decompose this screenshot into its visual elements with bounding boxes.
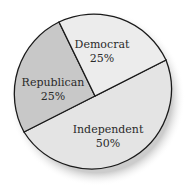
label-independent-name: Independent (73, 123, 144, 136)
label-republican-pct: 25% (41, 90, 65, 103)
pie-chart: Democrat 25% Republican 25% Independent … (0, 0, 190, 190)
label-democrat-pct: 25% (90, 52, 114, 65)
label-republican-name: Republican (22, 76, 85, 89)
label-independent-pct: 50% (96, 137, 120, 150)
label-democrat-name: Democrat (75, 38, 130, 51)
